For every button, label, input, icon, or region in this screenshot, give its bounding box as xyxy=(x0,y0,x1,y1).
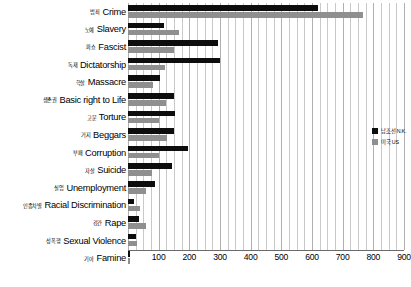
bar-row xyxy=(128,3,404,21)
x-axis-tick-labels: 100200300400500600700800900 xyxy=(128,252,404,266)
x-tick-label: 300 xyxy=(213,252,227,262)
x-tick-label: 800 xyxy=(366,252,380,262)
category-label-ko: 생존권 xyxy=(43,96,57,103)
category-label-row: 자살Suicide xyxy=(0,161,128,179)
x-tick-label: 200 xyxy=(182,252,196,262)
category-label-en: Suicide xyxy=(97,165,126,175)
category-label-ko: 자살 xyxy=(85,166,95,173)
category-label-en: Torture xyxy=(99,112,126,122)
category-label-row: 파쇼Fascist xyxy=(0,38,128,56)
category-label-ko: 강간 xyxy=(93,219,103,226)
category-label-ko: 범죄 xyxy=(90,8,100,15)
bar-1 xyxy=(128,82,153,88)
category-label-row: 독재Dictatorship xyxy=(0,56,128,74)
category-label-row: 강간Rape xyxy=(0,214,128,232)
bar-0 xyxy=(128,40,218,46)
bar-row xyxy=(128,232,404,250)
bar-row xyxy=(128,73,404,91)
bar-rows xyxy=(128,3,404,250)
bar-0 xyxy=(128,111,175,117)
bar-1 xyxy=(128,188,146,194)
bar-0 xyxy=(128,234,136,240)
bar-1 xyxy=(128,65,165,71)
bar-0 xyxy=(128,128,174,134)
bar-1 xyxy=(128,153,159,159)
category-label-en: Unemployment xyxy=(66,183,126,193)
bar-0 xyxy=(128,216,139,222)
category-label-en: Crime xyxy=(102,7,126,17)
category-label-ko: 독재 xyxy=(68,61,78,68)
bar-0 xyxy=(128,93,174,99)
category-label-ko: 성폭행 xyxy=(46,237,60,244)
bar-row xyxy=(128,179,404,197)
legend-swatch xyxy=(372,139,378,145)
chart-legend: 남조선 N.K.미국 US xyxy=(372,126,406,149)
category-label-ko: 고문 xyxy=(87,113,97,120)
category-label-en: Fascist xyxy=(98,42,126,52)
bar-0 xyxy=(128,199,134,205)
category-label-ko: 학살 xyxy=(76,78,86,85)
category-label-row: 성폭행Sexual Violence xyxy=(0,232,128,250)
category-label-ko: 파쇼 xyxy=(86,43,96,50)
category-label-row: 실업Unemployment xyxy=(0,179,128,197)
category-label-en: Basic right to Life xyxy=(59,95,126,105)
bar-row xyxy=(128,214,404,232)
category-label-en: Beggars xyxy=(93,130,126,140)
bar-row xyxy=(128,161,404,179)
bar-row xyxy=(128,21,404,39)
bar-0 xyxy=(128,75,160,81)
bar-row xyxy=(128,126,404,144)
category-label-row: 생존권Basic right to Life xyxy=(0,91,128,109)
category-label-row: 범죄Crime xyxy=(0,3,128,21)
x-tick-label: 700 xyxy=(336,252,350,262)
category-label-ko: 부패 xyxy=(73,149,83,156)
bar-1 xyxy=(128,241,137,247)
bar-1 xyxy=(128,47,174,53)
x-tick-label: 900 xyxy=(397,252,411,262)
bar-row xyxy=(128,56,404,74)
bar-0 xyxy=(128,146,188,152)
legend-swatch xyxy=(372,128,378,134)
bar-1 xyxy=(128,118,159,124)
legend-label: 미국 US xyxy=(381,138,399,146)
category-label-ko: 실업 xyxy=(54,184,64,191)
x-tick-label: 500 xyxy=(274,252,288,262)
category-label-ko: 기아 xyxy=(84,254,94,261)
category-label-ko: 거지 xyxy=(81,131,91,138)
bar-row xyxy=(128,91,404,109)
category-label-en: Massacre xyxy=(88,77,126,87)
bar-1 xyxy=(128,206,140,212)
category-label-row: 인종차별Racial Discrimination xyxy=(0,197,128,215)
bar-0 xyxy=(128,5,318,11)
bar-row xyxy=(128,38,404,56)
bar-row xyxy=(128,144,404,162)
bar-1 xyxy=(128,170,152,176)
bar-0 xyxy=(128,23,164,29)
legend-label: 남조선 N.K. xyxy=(381,127,406,135)
bar-0 xyxy=(128,163,172,169)
category-label-en: Dictatorship xyxy=(80,60,126,70)
bar-1 xyxy=(128,100,166,106)
category-label-en: Racial Discrimination xyxy=(44,200,126,210)
x-tick-label: 100 xyxy=(152,252,166,262)
category-label-row: 기아Famine xyxy=(0,249,128,267)
bar-0 xyxy=(128,58,220,64)
x-axis-line xyxy=(128,250,404,251)
bar-0 xyxy=(128,181,155,187)
category-label-en: Sexual Violence xyxy=(63,236,126,246)
category-axis-labels: 범죄Crime노예Slavery파쇼Fascist독재Dictatorship학… xyxy=(0,3,128,267)
bar-1 xyxy=(128,135,167,141)
category-label-row: 고문Torture xyxy=(0,109,128,127)
category-label-en: Corruption xyxy=(85,148,126,158)
category-label-en: Rape xyxy=(105,218,126,228)
bar-1 xyxy=(128,30,179,36)
bar-row xyxy=(128,109,404,127)
bar-1 xyxy=(128,12,363,18)
category-label-row: 학살Massacre xyxy=(0,73,128,91)
category-label-en: Famine xyxy=(96,253,126,263)
category-label-ko: 인종차별 xyxy=(23,201,42,208)
legend-entry: 미국 US xyxy=(372,138,406,147)
bar-1 xyxy=(128,223,146,229)
category-label-row: 부패Corruption xyxy=(0,144,128,162)
